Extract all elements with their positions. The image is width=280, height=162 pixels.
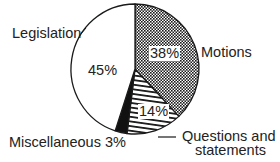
percent-label-questions: 14%: [138, 104, 169, 119]
legend-label-legislation: Legislation: [12, 26, 81, 41]
legend-label-questions-line2: statements: [195, 143, 266, 158]
percent-label-legislation: 45%: [88, 63, 117, 78]
legend-label-miscellaneous: Miscellaneous 3%: [9, 135, 126, 150]
percent-label-motions: 38%: [149, 46, 180, 61]
legend-label-motions: Motions: [201, 45, 252, 60]
